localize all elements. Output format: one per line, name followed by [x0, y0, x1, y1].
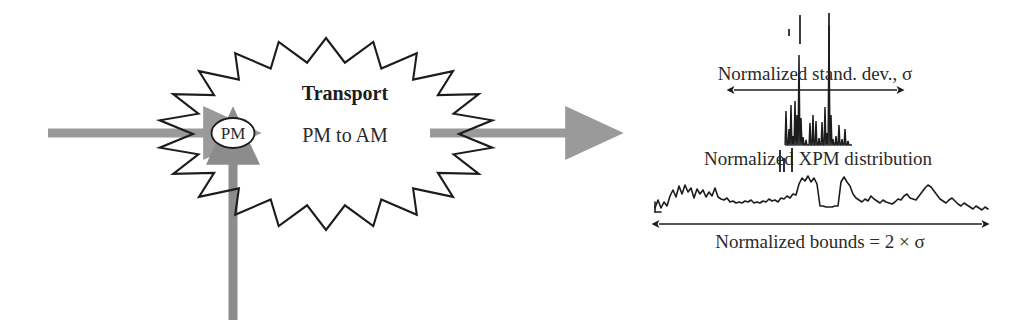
burst-subtitle-pm-to-am: PM to AM: [302, 124, 388, 146]
burst-title-transport: Transport: [302, 82, 389, 105]
distribution-label: Normalized XPM distribution: [704, 148, 932, 169]
bounds-axis-label: Normalized bounds = 2 × σ: [715, 231, 925, 252]
sigma-axis-label: Normalized stand. dev., σ: [718, 63, 913, 84]
pm-node-label: PM: [221, 124, 246, 143]
figure-root: PM Transport PM to AM Normalized stand. …: [0, 0, 1020, 325]
